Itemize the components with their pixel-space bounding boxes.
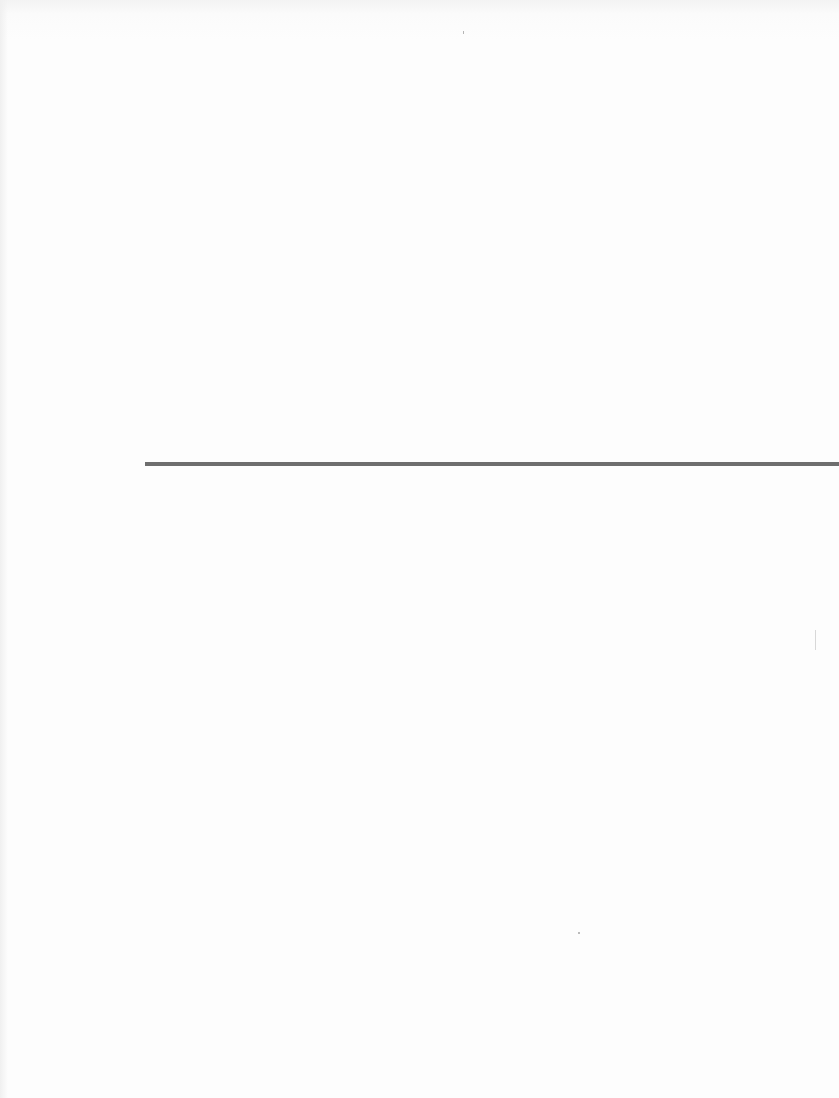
horizontal-rule bbox=[145, 462, 839, 466]
scan-speck bbox=[463, 31, 464, 34]
scan-mark bbox=[815, 630, 816, 650]
document-page bbox=[0, 0, 839, 1098]
scan-speck bbox=[578, 932, 580, 934]
scan-edge-shadow bbox=[0, 0, 8, 1098]
